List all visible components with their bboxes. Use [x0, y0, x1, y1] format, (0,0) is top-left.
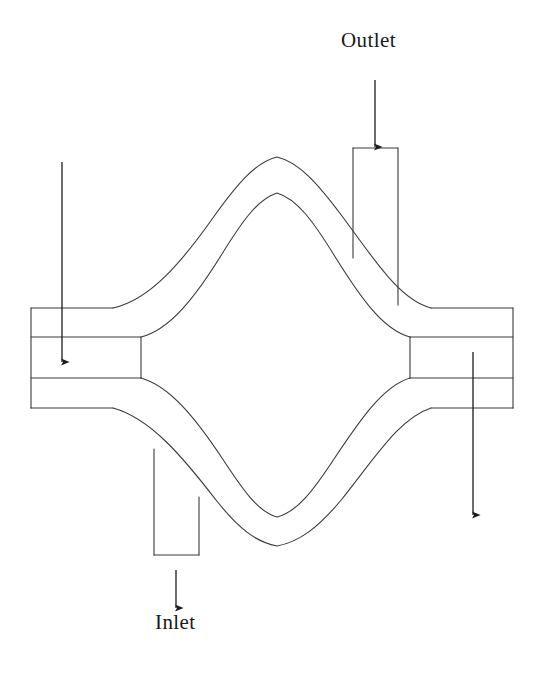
left-port-body — [31, 308, 141, 408]
inlet-label: Inlet — [155, 610, 195, 635]
shell-inner-lower — [141, 378, 410, 517]
shell-outer-upper — [113, 157, 431, 308]
right-port-body — [410, 308, 513, 408]
inlet-stub — [154, 449, 199, 555]
shell-inner-upper — [141, 193, 410, 337]
outlet-stub — [353, 148, 398, 305]
diagram-canvas — [0, 0, 538, 673]
outlet-label: Outlet — [341, 28, 396, 53]
flow-diagram: Outlet Inlet — [0, 0, 538, 673]
shell-outer-lower — [113, 408, 431, 546]
